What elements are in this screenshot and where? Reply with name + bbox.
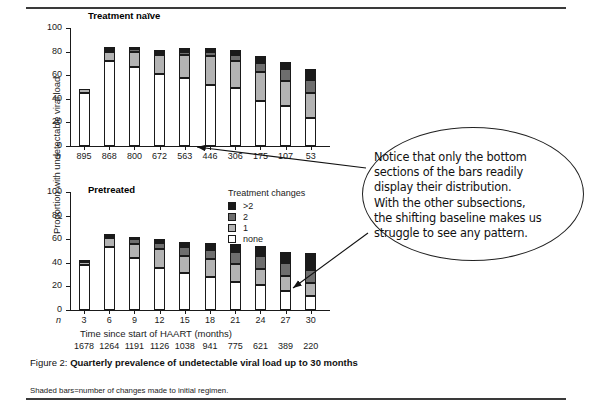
callout-line-3: display their distribution.: [374, 180, 572, 195]
arrow-to-pretreated-bar: [293, 233, 368, 288]
figure-page: Proportion with undetectable viral load …: [0, 0, 591, 418]
callout-line-4: With the other subsections,: [374, 196, 572, 211]
callout-line-6: struggle to see any pattern.: [374, 226, 572, 241]
callout-line-5: the shifting baseline makes us: [374, 211, 572, 226]
callout-text: Notice that only the bottom sections of …: [374, 150, 572, 241]
figure-caption: Figure 2: Quarterly prevalence of undete…: [30, 357, 360, 369]
callout-line-2: sections of the bars readily: [374, 165, 572, 180]
caption-title: Quarterly prevalence of undetectable vir…: [70, 357, 358, 368]
arrow-to-naive-bar: [197, 147, 366, 168]
figure-footnote: Shaded bars=number of changes made to in…: [30, 386, 228, 395]
caption-lead: Figure 2:: [30, 357, 68, 368]
callout-line-1: Notice that only the bottom: [374, 150, 572, 165]
